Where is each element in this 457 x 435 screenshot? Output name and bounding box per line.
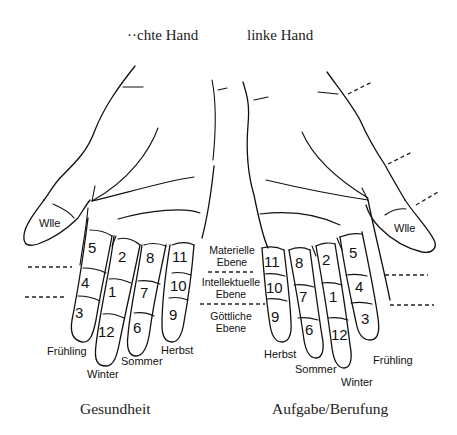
left-season-winter: Winter (87, 368, 119, 380)
right-thumb-label: Wlle (394, 222, 415, 234)
svg-text:12: 12 (98, 323, 115, 340)
svg-text:7: 7 (299, 288, 307, 305)
left-side-hand: Wlle 5 4 3 (24, 66, 227, 380)
svg-text:9: 9 (271, 308, 279, 325)
left-season-summer: Sommer (121, 355, 163, 367)
right-hand-title: ··chte Hand (127, 27, 199, 43)
svg-text:2: 2 (118, 248, 126, 265)
left-hand-title: linke Hand (247, 27, 314, 43)
svg-text:3: 3 (75, 304, 83, 321)
caption-calling: Aufgabe/Berufung (272, 400, 388, 417)
caption-health: Gesundheit (80, 400, 151, 417)
svg-text:6: 6 (133, 319, 141, 336)
svg-text:5: 5 (349, 244, 357, 261)
right-season-winter: Winter (341, 376, 373, 388)
plane-material-line1: Materielle (209, 244, 255, 256)
right-little-numbers: 11 10 9 (264, 253, 283, 325)
svg-text:8: 8 (146, 249, 154, 266)
plane-divine-line1: Göttliche (210, 310, 252, 322)
plane-intellectual-line2: Ebene (216, 288, 247, 300)
left-index-numbers: 5 4 3 (75, 239, 96, 321)
svg-text:5: 5 (88, 239, 96, 256)
right-season-summer: Sommer (295, 363, 337, 375)
left-middle-numbers: 2 1 12 (98, 248, 126, 340)
svg-text:1: 1 (329, 288, 337, 305)
left-little-numbers: 11 10 9 (169, 248, 188, 323)
svg-text:7: 7 (140, 284, 148, 301)
svg-text:8: 8 (295, 254, 303, 271)
right-season-spring: Frühling (373, 354, 413, 366)
svg-text:4: 4 (355, 278, 363, 295)
plane-labels: Materielle Ebene Intellektuelle Ebene Gö… (200, 244, 265, 334)
plane-divine-line2: Ebene (216, 322, 247, 334)
svg-text:11: 11 (172, 248, 188, 265)
svg-text:6: 6 (305, 321, 313, 338)
left-thumb-label: Wlle (39, 217, 60, 229)
svg-text:2: 2 (322, 251, 330, 268)
plane-intellectual-line1: Intellektuelle (202, 276, 261, 288)
left-season-spring: Frühling (47, 345, 87, 357)
right-hand-outer-contour (327, 72, 405, 200)
svg-text:3: 3 (361, 310, 369, 327)
plane-material-line2: Ebene (217, 256, 248, 268)
right-side-hand: Wlle 11 10 9 8 (243, 72, 438, 388)
right-ring-numbers: 8 7 6 (295, 254, 313, 338)
hands-diagram: ··chte Hand linke Hand Wlle (0, 0, 457, 435)
svg-text:10: 10 (170, 277, 187, 294)
svg-text:9: 9 (169, 306, 177, 323)
svg-text:10: 10 (266, 279, 283, 296)
svg-text:1: 1 (108, 283, 116, 300)
svg-text:11: 11 (264, 253, 280, 270)
svg-text:4: 4 (81, 274, 89, 291)
left-season-autumn: Herbst (161, 344, 193, 356)
right-season-autumn: Herbst (264, 348, 296, 360)
svg-text:12: 12 (331, 326, 348, 343)
